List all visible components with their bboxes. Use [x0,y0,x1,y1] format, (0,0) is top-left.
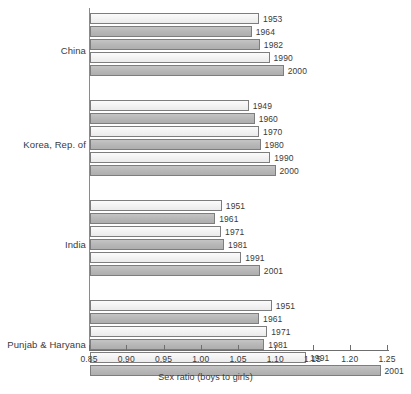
bar [90,65,284,76]
bar-value-label: 1964 [256,27,275,37]
bar [90,39,260,50]
bar-value-label: 1961 [219,214,238,224]
bar-value-label: 1982 [264,40,283,50]
bar-value-label: 1981 [268,340,287,350]
sex-ratio-bar-chart: ChinaKorea, Rep. ofIndiaPunjab & Haryana… [0,0,411,394]
bar-row: 2000 [90,65,388,76]
bar-value-label: 1951 [226,201,245,211]
x-axis-tick-label: 1.25 [379,354,396,364]
bar-value-label: 1971 [225,227,244,237]
bar [90,165,276,176]
bar-value-label: 1990 [274,153,293,163]
bar [90,213,215,224]
bar [90,52,270,63]
x-axis-tick [201,345,202,350]
bar [90,152,270,163]
x-axis-tick [350,345,351,350]
bar-value-label: 1953 [263,14,282,24]
plot-area: 1953196419821990200019491960197019801990… [90,8,388,350]
category-label-india: India [65,238,86,249]
bar-value-label: 2000 [280,166,299,176]
bar-row: 1982 [90,39,388,50]
x-axis-tick-label: 0.90 [118,354,135,364]
bar-value-label: 1970 [263,127,282,137]
bar-row: 1971 [90,226,388,237]
bar-row: 1980 [90,139,388,150]
bar-row: 1964 [90,26,388,37]
bar-value-label: 1960 [259,114,278,124]
x-axis-tick-label: 1.15 [304,354,321,364]
category-label-column: ChinaKorea, Rep. ofIndiaPunjab & Haryana [0,0,86,394]
bar [90,252,241,263]
bar-value-label: 1961 [263,314,282,324]
bar [90,13,259,24]
bar-value-label: 1971 [271,327,290,337]
x-axis-tick [387,345,388,350]
bar [90,300,272,311]
bar [90,326,267,337]
x-axis-tick [126,345,127,350]
bar-row: 1953 [90,13,388,24]
bar [90,313,259,324]
bar [90,139,261,150]
bar-value-label: 2001 [264,266,283,276]
bar-value-label: 1980 [265,140,284,150]
x-axis-tick [275,345,276,350]
bar [90,100,249,111]
bar-row: 1971 [90,326,388,337]
bar-row: 1961 [90,313,388,324]
bar [90,226,221,237]
x-axis-tick [238,345,239,350]
bar [90,265,260,276]
x-axis-tick [89,345,90,350]
category-label-china: China [61,45,86,56]
bar-row: 2000 [90,165,388,176]
bar [90,200,222,211]
bar-row: 1949 [90,100,388,111]
bar-row: 1960 [90,113,388,124]
bar [90,26,252,37]
x-axis-tick-label: 1.20 [341,354,358,364]
bar-value-label: 1990 [274,53,293,63]
bar-value-label: 2000 [288,66,307,76]
bar-row: 1990 [90,52,388,63]
bar [90,239,224,250]
bar-row: 1951 [90,300,388,311]
bar-value-label: 1981 [228,240,247,250]
x-axis-tick-label: 1.05 [230,354,247,364]
x-axis-tick [164,345,165,350]
x-axis-tick [313,345,314,350]
x-axis-tick-label: 1.10 [267,354,284,364]
bar [90,126,259,137]
x-axis-tick-label: 0.85 [81,354,98,364]
bar-row: 1981 [90,239,388,250]
x-axis-tick-label: 1.00 [192,354,209,364]
value-axis-line: 0.850.900.951.001.051.101.151.201.25 [89,350,389,351]
bar-value-label: 1949 [253,101,272,111]
x-axis-tick-label: 0.95 [155,354,172,364]
category-label-punjab-haryana: Punjab & Haryana [7,338,86,349]
bar [90,113,255,124]
bar-row: 1981 [90,339,388,350]
bar-value-label: 1951 [276,301,295,311]
bar-row: 1991 [90,252,388,263]
bar-row: 1990 [90,152,388,163]
bar-row: 1970 [90,126,388,137]
x-axis-title: Sex ratio (boys to girls) [0,372,411,382]
bar-row: 2001 [90,265,388,276]
bar-value-label: 1991 [245,253,264,263]
category-label-korea-rep-of: Korea, Rep. of [23,138,86,149]
bar-row: 1961 [90,213,388,224]
bar-row: 1951 [90,200,388,211]
